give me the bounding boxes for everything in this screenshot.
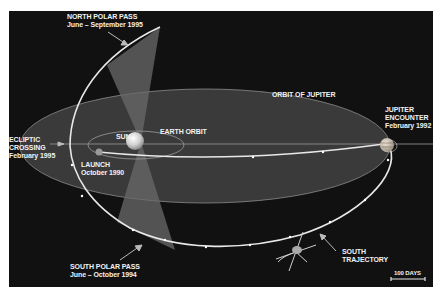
launch-label: LAUNCH October 1990 xyxy=(81,161,124,177)
north-polar-pass-dates: June – September 1995 xyxy=(67,21,143,29)
ecliptic-crossing-line1: ECLIPTIC xyxy=(9,136,55,144)
jupiter-icon xyxy=(380,138,397,152)
ulysses-trajectory-diagram: NORTH POLAR PASS June – September 1995 O… xyxy=(0,0,442,296)
south-trajectory-label: SOUTH TRAJECTORY xyxy=(342,248,388,264)
earth-orbit-label: EARTH ORBIT xyxy=(160,128,207,136)
ecliptic-crossing-date: February 1995 xyxy=(9,152,55,160)
north-polar-pass-label: NORTH POLAR PASS June – September 1995 xyxy=(67,13,143,29)
orbit-of-jupiter-label: ORBIT OF JUPITER xyxy=(272,91,335,99)
south-trajectory-line2: TRAJECTORY xyxy=(342,256,388,264)
south-polar-pass-label: SOUTH POLAR PASS June – October 1994 xyxy=(70,263,140,279)
south-trajectory-line1: SOUTH xyxy=(342,248,388,256)
jupiter-encounter-line2: ENCOUNTER xyxy=(385,114,431,122)
launch-title: LAUNCH xyxy=(81,161,124,169)
south-polar-pass-dates: June – October 1994 xyxy=(70,271,140,279)
earth-icon xyxy=(96,149,103,156)
jupiter-orbit-plane xyxy=(20,89,390,203)
sun-label: SUN xyxy=(116,133,130,141)
launch-date: October 1990 xyxy=(81,169,124,177)
spacecraft-icon xyxy=(276,232,316,271)
scale-bar xyxy=(391,277,425,281)
south-polar-pass-title: SOUTH POLAR PASS xyxy=(70,263,140,271)
ecliptic-crossing-line2: CROSSING xyxy=(9,144,55,152)
north-polar-pass-title: NORTH POLAR PASS xyxy=(67,13,143,21)
scale-bar-label: 100 DAYS xyxy=(394,269,421,277)
jupiter-encounter-label: JUPITER ENCOUNTER February 1992 xyxy=(385,106,431,130)
jupiter-encounter-date: February 1992 xyxy=(385,122,431,130)
ecliptic-crossing-label: ECLIPTIC CROSSING February 1995 xyxy=(9,136,55,160)
jupiter-encounter-line1: JUPITER xyxy=(385,106,431,114)
